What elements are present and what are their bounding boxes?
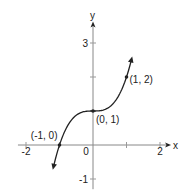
data-point (91, 109, 95, 113)
curve-end-arrow-icon (128, 57, 133, 64)
y-tick-label: 3 (82, 38, 88, 49)
point-label: (1, 2) (130, 74, 153, 85)
point-label: (0, 1) (96, 114, 119, 125)
y-tick-label: -1 (79, 174, 88, 185)
y-axis-label: y (90, 10, 95, 21)
x-axis-label: x (173, 140, 178, 151)
x-tick-label: 2 (157, 146, 163, 157)
x-tick-label: 0 (83, 146, 89, 157)
x-tick-label: -2 (22, 146, 31, 157)
function-graph: xy -202-13 (-1, 0)(0, 1)(1, 2) (0, 0, 185, 194)
data-point (58, 143, 62, 147)
point-label: (-1, 0) (31, 130, 58, 141)
curve-start-arrow-icon (51, 163, 56, 169)
data-point (125, 75, 129, 79)
